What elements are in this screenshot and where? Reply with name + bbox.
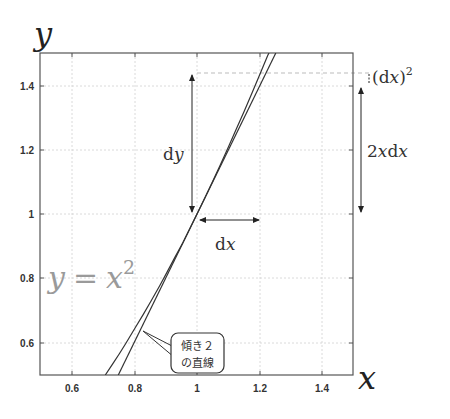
chart: 0.6 0.8 1 1.2 1.4 1.4 1.2 1 0.8 0.6 dy d… bbox=[0, 0, 450, 419]
callout-line-2: の直線 bbox=[181, 356, 214, 370]
y-tick-label: 0.6 bbox=[20, 338, 34, 349]
y-tick-label: 1.2 bbox=[20, 145, 34, 156]
y-tick-label: 0.8 bbox=[20, 273, 34, 284]
x-tick-label: 1.4 bbox=[315, 383, 329, 394]
dx-squared-label: (dx)2 bbox=[372, 65, 413, 87]
dx-label: dx bbox=[215, 234, 236, 254]
x-axis-label: x bbox=[358, 359, 376, 397]
callout-line-1: 傾き２ bbox=[181, 339, 214, 353]
tangent-callout: 傾き２ の直線 bbox=[143, 331, 224, 373]
y-tick-label: 1.4 bbox=[20, 81, 34, 92]
2xdx-label: 2xdx bbox=[367, 141, 408, 161]
x-tick-label: 0.8 bbox=[128, 383, 142, 394]
dy-label: dy bbox=[163, 144, 184, 164]
y-tick-label: 1 bbox=[28, 209, 34, 220]
y-axis-label: y bbox=[32, 15, 53, 53]
y-tick-labels: 1.4 1.2 1 0.8 0.6 bbox=[20, 81, 34, 349]
curve-equation-label: y=x2 bbox=[46, 256, 135, 295]
x-tick-label: 1 bbox=[194, 383, 200, 394]
x-tick-labels: 0.6 0.8 1 1.2 1.4 bbox=[65, 383, 329, 394]
x-tick-label: 0.6 bbox=[65, 383, 79, 394]
x-tick-label: 1.2 bbox=[253, 383, 267, 394]
